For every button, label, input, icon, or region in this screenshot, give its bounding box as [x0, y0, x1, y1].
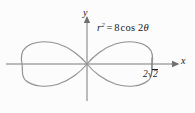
x-axis-tick-label: 2√2: [143, 68, 158, 79]
y-axis-label: y: [83, 7, 87, 18]
x-axis-arrowhead: [172, 61, 180, 67]
radical-bar: [152, 69, 158, 70]
equation-function: cos: [120, 22, 136, 33]
tick-label-radicand: 2: [153, 69, 158, 79]
equation-annotation: r2=8cos 2θ: [97, 22, 149, 33]
equation-equals: =: [105, 22, 114, 33]
equation-coefficient: 8: [114, 22, 119, 33]
equation-angle-symbol: θ: [143, 22, 148, 33]
polar-graph-figure: r2=8cos 2θ x y 2√2: [0, 0, 195, 113]
square-root-icon: √2: [148, 68, 158, 79]
plot-canvas: [0, 0, 195, 113]
x-axis-label: x: [181, 55, 185, 66]
